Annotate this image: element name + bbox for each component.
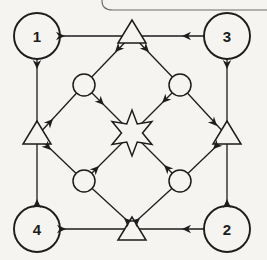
center-star (112, 110, 152, 156)
corner-circle-2-label: 2 (223, 221, 231, 238)
corner-circle-3-label: 3 (223, 28, 231, 45)
corner-circle-1-label: 1 (33, 28, 41, 45)
panel-corner-line (102, 0, 267, 10)
lower-left-small-circle (73, 170, 95, 192)
upper-left-small-circle (73, 74, 95, 96)
lower-right-small-circle (169, 170, 191, 192)
corner-circle-4-label: 4 (33, 221, 42, 238)
flow-diagram: 1342 (0, 0, 267, 260)
upper-right-small-circle (169, 74, 191, 96)
scanned-diagram-page: 1342 (0, 0, 267, 260)
top-triangle (118, 20, 146, 43)
